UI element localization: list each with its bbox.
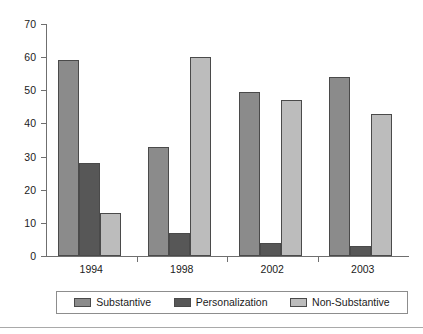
bottom-divider	[0, 327, 423, 328]
bar-2002-non-substantive	[281, 100, 302, 256]
legend-label: Substantive	[96, 297, 151, 308]
y-axis-tick-label: 0	[8, 251, 36, 262]
legend-swatch-icon	[290, 298, 307, 307]
x-axis-label-2003: 2003	[318, 264, 409, 275]
bar-2003-non-substantive	[371, 114, 392, 257]
y-axis-tick	[41, 256, 46, 257]
legend-item-substantive[interactable]: Substantive	[74, 297, 151, 308]
legend-label: Non-Substantive	[312, 297, 390, 308]
x-axis-label-2002: 2002	[227, 264, 318, 275]
bar-1998-non-substantive	[190, 57, 211, 256]
bar-1994-personalization	[79, 163, 100, 256]
bar-2003-substantive	[329, 77, 350, 256]
bar-1994-non-substantive	[100, 213, 121, 256]
bar-1994-substantive	[58, 60, 79, 256]
x-axis-label-1998: 1998	[137, 264, 228, 275]
legend-item-non-substantive[interactable]: Non-Substantive	[290, 297, 390, 308]
y-axis-tick-label: 40	[8, 118, 36, 129]
y-axis-tick-label: 70	[8, 19, 36, 30]
legend-swatch-icon	[74, 298, 91, 307]
legend-swatch-icon	[174, 298, 191, 307]
legend-item-personalization[interactable]: Personalization	[174, 297, 268, 308]
bar-1998-personalization	[169, 233, 190, 256]
x-axis-tick	[318, 257, 319, 262]
y-axis-tick-label: 10	[8, 218, 36, 229]
bar-2002-personalization	[260, 243, 281, 256]
plot-area	[46, 24, 408, 256]
y-axis-tick-label: 60	[8, 52, 36, 63]
x-axis-tick	[227, 257, 228, 262]
bar-2002-substantive	[239, 92, 260, 256]
x-axis-tick	[137, 257, 138, 262]
y-axis-tick-label: 20	[8, 185, 36, 196]
legend-label: Personalization	[196, 297, 268, 308]
bar-1998-substantive	[148, 147, 169, 256]
x-axis-label-1994: 1994	[46, 264, 137, 275]
chart-legend: SubstantivePersonalizationNon-Substantiv…	[56, 291, 408, 314]
bar-chart-figure: 010203040506070 1994199820022003 Substan…	[0, 0, 423, 334]
bar-2003-personalization	[350, 246, 371, 256]
y-axis-tick-label: 50	[8, 85, 36, 96]
y-axis-tick-label: 30	[8, 152, 36, 163]
